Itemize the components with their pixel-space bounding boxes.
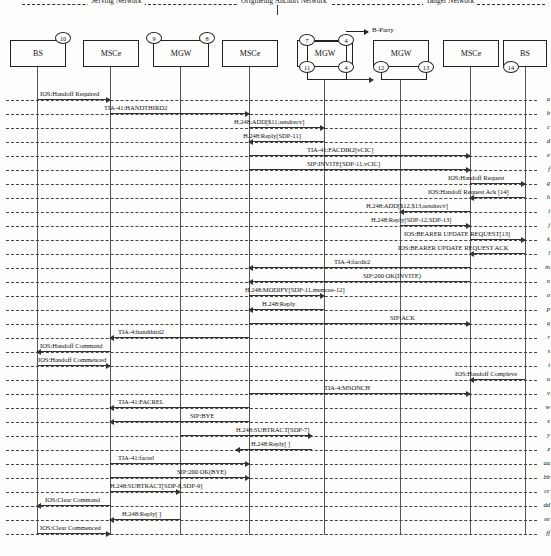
row-letter: e: [547, 151, 550, 158]
message-label: H.248:Reply[ ]: [251, 440, 290, 447]
connector-11-to-4-inner: [307, 79, 347, 80]
node-msce-target[interactable]: MSCe: [443, 40, 499, 67]
row-separator: [6, 380, 537, 381]
connector-12-to-13-inner: [381, 79, 427, 80]
row-letter: i: [548, 207, 550, 214]
row-separator: [6, 520, 537, 521]
message-arrow: [249, 141, 324, 142]
termination-circle-8[interactable]: 8: [199, 32, 215, 44]
message-label: H.248:MODIFY[SDP-11,memore-12]: [245, 286, 345, 293]
termination-circle-10[interactable]: 10: [55, 32, 71, 44]
message-label: TIA-4:handthird2: [118, 328, 164, 335]
row-letter: cc: [544, 487, 550, 494]
message-arrow: [249, 267, 470, 268]
row-separator: [6, 338, 537, 339]
row-letter: p: [547, 305, 550, 312]
row-separator: [6, 100, 537, 101]
row-separator: [6, 478, 537, 479]
row-separator: [6, 492, 537, 493]
message-label: SIP:INVITE[SDP-11,vCIC]: [307, 160, 380, 167]
message-arrow: [110, 519, 180, 520]
row-letter: b: [547, 109, 550, 116]
message-arrow: [110, 477, 249, 478]
row-letter: w: [546, 403, 550, 410]
message-label: H.248:Reply[ ]: [122, 510, 161, 517]
node-msce-anchor[interactable]: MSCe: [222, 40, 278, 67]
message-label: TIA-4:facdir2: [334, 258, 370, 265]
message-arrow: [249, 323, 470, 324]
row-separator: [6, 310, 537, 311]
row-separator: [6, 268, 537, 269]
message-arrow: [110, 113, 249, 114]
message-label: SIP:ACK: [390, 314, 415, 321]
row-letter: ff: [546, 529, 550, 536]
row-letter: q: [547, 319, 550, 326]
message-label: TIA-41:FACDIR2[vCIC]: [307, 146, 373, 153]
row-separator: [6, 436, 537, 437]
network-label-originating-anchor: Origineing Anchort Network: [238, 0, 330, 5]
message-arrow: [470, 183, 525, 184]
figure-caption: [0, 546, 551, 556]
row-separator: [6, 184, 537, 185]
termination-circle-14[interactable]: 14: [503, 61, 519, 73]
row-letter: r: [547, 333, 550, 340]
message-label: H.248:ADD[$12,$13,sendrecv]: [366, 202, 448, 209]
termination-circle-9[interactable]: 9: [146, 32, 162, 44]
network-label-target: Tanger Network: [423, 0, 477, 5]
message-label: TIA-4:MSONCH: [324, 384, 370, 391]
termination-circle-13[interactable]: 13: [418, 61, 434, 73]
message-label: H.248:SUBTRACT[SDP-7]: [236, 426, 310, 433]
termination-circle-4-top[interactable]: 4: [338, 34, 354, 46]
termination-circle-11[interactable]: 11: [299, 61, 315, 73]
node-bs-serving[interactable]: BS: [10, 40, 66, 67]
message-arrow: [110, 337, 249, 338]
row-separator: [6, 128, 537, 129]
message-arrow: [249, 127, 324, 128]
message-arrow: [110, 421, 249, 422]
message-label: IOS:Clear Command: [45, 496, 100, 503]
message-arrow: [180, 435, 312, 436]
connector-mgw-serving-9: [153, 66, 209, 67]
row-separator: [6, 282, 537, 283]
row-letter: g: [547, 179, 550, 186]
termination-circle-12[interactable]: 12: [373, 61, 389, 73]
message-label: IOS:Handoff Required: [40, 90, 99, 97]
row-separator: [6, 352, 537, 353]
row-letter: v: [547, 389, 550, 396]
message-label: H.248:SUBTRACT[SDP-8,SDP-9]: [110, 482, 202, 489]
row-letter: c: [547, 123, 550, 130]
message-label: SIP:200 OK(INVITE): [363, 272, 421, 279]
row-separator: [6, 240, 537, 241]
message-arrow: [110, 491, 180, 492]
message-arrow: [249, 169, 470, 170]
message-label: IOS:Handoff Request: [448, 174, 504, 181]
message-arrow: [37, 505, 110, 506]
row-letter: z: [547, 445, 550, 452]
row-separator: [6, 534, 537, 535]
row-separator: [6, 142, 537, 143]
row-separator: [6, 226, 537, 227]
message-arrow: [37, 533, 110, 534]
network-label-serving: Serving Network: [88, 0, 145, 5]
message-label: IOS:BEARER UPDATE REQUEST[13]: [404, 230, 510, 237]
row-separator: [6, 170, 537, 171]
message-label: IOS:Handoff Command: [40, 342, 102, 349]
message-arrow: [249, 309, 324, 310]
row-separator: [6, 506, 537, 507]
termination-circle-4-bottom[interactable]: 4: [338, 61, 354, 73]
message-label: TIA-41:facrel: [118, 454, 154, 461]
message-arrow: [470, 197, 525, 198]
b-party-label: B-Party: [372, 26, 394, 34]
node-msce-serving[interactable]: MSCe: [83, 40, 139, 67]
termination-circle-7[interactable]: 7: [299, 34, 315, 46]
row-letter: l: [548, 249, 550, 256]
message-label: TIA-41:HANDTHIRD2: [104, 104, 167, 111]
message-label: IOS:BEARER UPDATE REQUEST ACK: [398, 244, 508, 251]
node-mgw-serving[interactable]: MGW: [153, 40, 209, 67]
row-letter: m: [545, 263, 550, 270]
b-party-arrow: [346, 31, 368, 32]
message-arrow: [249, 295, 324, 296]
row-separator: [6, 156, 537, 157]
message-arrow: [37, 365, 110, 366]
row-separator: [6, 296, 537, 297]
